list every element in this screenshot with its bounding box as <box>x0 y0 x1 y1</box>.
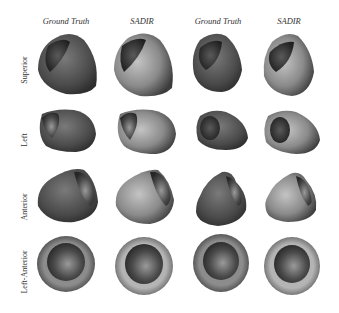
shape-anterior-gt-2 <box>196 172 246 226</box>
shape-left-gt-2 <box>196 111 248 150</box>
shape-anterior-gt-1 <box>38 169 98 222</box>
shape-left-anterior-gt-2 <box>193 234 249 292</box>
shape-left-anterior-sadir-2 <box>264 237 320 295</box>
shape-left-gt-1 <box>40 110 96 153</box>
shape-superior-gt-1 <box>38 34 97 94</box>
shape-superior-gt-2 <box>193 34 242 92</box>
shape-left-anterior-sadir-1 <box>115 237 173 295</box>
shape-left-sadir-2 <box>264 111 320 154</box>
shape-grid <box>0 0 339 313</box>
shape-left-anterior-gt-1 <box>37 236 95 292</box>
shape-superior-sadir-1 <box>114 33 173 96</box>
shape-anterior-sadir-2 <box>265 173 316 222</box>
shape-superior-sadir-2 <box>264 34 314 96</box>
shape-anterior-sadir-1 <box>116 170 174 224</box>
shape-left-sadir-1 <box>118 110 176 155</box>
